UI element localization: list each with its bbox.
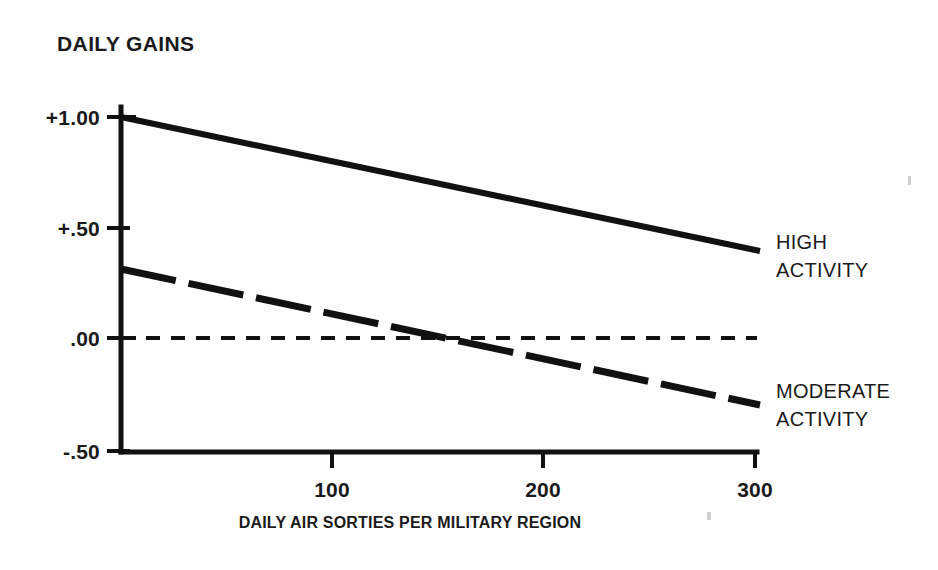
series-label-high-activity-line2: ACTIVITY <box>776 259 868 281</box>
x-tick-label-300: 300 <box>737 478 773 501</box>
x-tick-label-200: 200 <box>525 478 561 501</box>
y-tick-label-0.00: .00 <box>70 327 100 350</box>
y-axis-title: DAILY GAINS <box>57 32 194 55</box>
chart-background <box>0 0 938 570</box>
y-tick-label-0.50: +.50 <box>58 217 100 240</box>
x-axis-caption: DAILY AIR SORTIES PER MILITARY REGION <box>239 514 582 531</box>
scan-speck <box>707 512 711 520</box>
y-tick-label-1.00: +1.00 <box>46 106 100 129</box>
y-tick-label--0.50: -.50 <box>63 440 100 463</box>
scan-speck <box>908 176 911 185</box>
series-label-moderate-activity-line1: MODERATE <box>776 380 890 402</box>
series-label-moderate-activity-line2: ACTIVITY <box>776 408 868 430</box>
series-label-high-activity-line1: HIGH <box>776 231 827 253</box>
x-tick-label-100: 100 <box>314 478 350 501</box>
chart-figure: DAILY GAINS +1.00 +.50 .00 -.50 100 200 … <box>0 0 938 570</box>
daily-gains-line-chart: DAILY GAINS +1.00 +.50 .00 -.50 100 200 … <box>0 0 938 570</box>
